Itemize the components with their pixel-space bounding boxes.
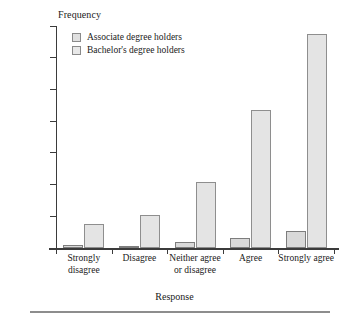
bar: [140, 215, 160, 248]
bar-chart-figure: Frequency Associate degree holders Bache…: [0, 0, 349, 322]
legend-label: Bachelor's degree holders: [87, 45, 185, 55]
x-axis-line: [49, 248, 339, 250]
y-tick-mark: [50, 184, 56, 185]
x-axis-title: Response: [0, 291, 349, 302]
y-tick-mark: [50, 89, 56, 90]
bar: [286, 231, 306, 248]
x-axis-category-label: Strongly agree: [269, 253, 343, 265]
bar: [84, 224, 104, 248]
bottom-rule: [30, 311, 330, 313]
legend-swatch-icon: [72, 46, 81, 55]
bar: [119, 246, 139, 248]
bar: [175, 242, 195, 248]
bar: [230, 238, 250, 248]
y-tick-mark: [50, 121, 56, 122]
legend-label: Associate degree holders: [87, 32, 182, 42]
legend-swatch-icon: [72, 33, 81, 42]
y-axis-title: Frequency: [58, 9, 101, 20]
chart-legend: Associate degree holders Bachelor's degr…: [72, 31, 185, 57]
bar: [251, 110, 271, 248]
bar: [63, 245, 83, 248]
y-tick-mark: [50, 152, 56, 153]
bar: [196, 182, 216, 248]
y-tick-mark: [50, 26, 56, 27]
y-tick-mark: [50, 57, 56, 58]
bar: [307, 34, 327, 248]
legend-item-bachelors: Bachelor's degree holders: [72, 44, 185, 56]
legend-item-associate: Associate degree holders: [72, 31, 185, 43]
x-axis-tick: [334, 248, 335, 254]
y-tick-mark: [50, 216, 56, 217]
